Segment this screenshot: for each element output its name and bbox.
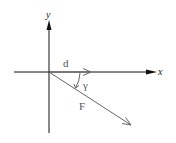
vector-F-label: F: [79, 101, 85, 112]
y-axis-arrowhead-icon: [47, 20, 52, 30]
vector-F: [49, 72, 131, 125]
y-axis-label: y: [46, 9, 50, 20]
angle-gamma-label: γ: [83, 80, 88, 91]
x-axis-label: x: [158, 66, 162, 77]
vector-F-arrowhead-icon: [122, 118, 131, 126]
angle-gamma-arc: [74, 73, 80, 88]
vector-diagram: [0, 0, 176, 143]
x-axis-arrowhead-icon: [146, 70, 157, 75]
y-axis: [47, 20, 52, 133]
vector-d: [49, 69, 91, 76]
vector-d-label: d: [63, 58, 69, 69]
